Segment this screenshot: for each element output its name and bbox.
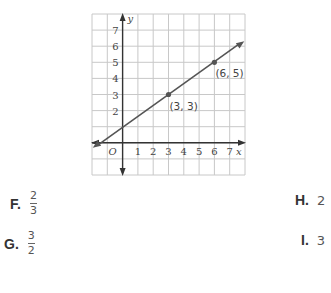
x-tick-label: 3 (165, 146, 171, 157)
data-point (212, 60, 217, 65)
choice-f[interactable]: F. 2 3 (10, 190, 37, 217)
y-tick-label: 5 (112, 57, 118, 68)
x-tick-label: 5 (196, 146, 202, 157)
point-label: (3, 3) (170, 100, 198, 112)
x-tick-label: 6 (211, 146, 217, 157)
x-tick-label: 4 (181, 146, 187, 157)
x-tick-label: 1 (135, 146, 141, 157)
fraction: 3 2 (28, 230, 35, 257)
y-tick-label: 7 (112, 25, 118, 36)
coordinate-graph: 1234567234567Oxy(3, 3)(6, 5) (0, 0, 331, 185)
choice-g[interactable]: G. 3 2 (4, 230, 35, 257)
denominator: 3 (30, 205, 37, 217)
origin-label: O (108, 146, 116, 157)
line-arrow-right-icon (236, 41, 244, 48)
x-axis-label: x (236, 146, 242, 157)
numerator: 2 (30, 190, 37, 202)
choice-value: 2 (317, 193, 325, 208)
fraction: 2 3 (30, 190, 37, 217)
choice-letter: I. (301, 232, 309, 248)
choice-letter: H. (295, 192, 309, 208)
y-tick-label: 6 (112, 41, 118, 52)
y-axis-label: y (127, 13, 134, 24)
x-tick-label: 2 (150, 146, 156, 157)
choice-value: 3 (317, 233, 325, 248)
denominator: 2 (28, 245, 35, 257)
choice-letter: F. (10, 196, 21, 212)
choice-i[interactable]: I. 3 (301, 232, 325, 248)
x-tick-label: 7 (227, 146, 233, 157)
y-tick-label: 3 (112, 90, 118, 101)
y-tick-label: 4 (112, 73, 118, 84)
y-tick-label: 2 (112, 106, 118, 117)
point-label: (6, 5) (215, 67, 243, 79)
numerator: 3 (28, 230, 35, 242)
data-point (166, 92, 171, 97)
line-arrow-left-icon (93, 140, 101, 147)
choice-h[interactable]: H. 2 (295, 192, 325, 208)
choice-letter: G. (4, 236, 19, 252)
